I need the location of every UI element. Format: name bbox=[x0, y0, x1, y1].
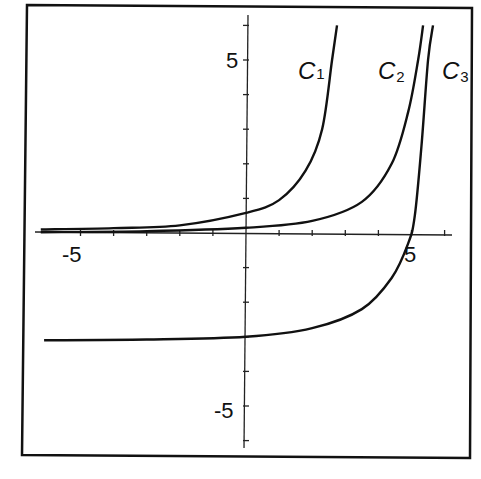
curve-c1 bbox=[41, 25, 337, 229]
y-tick-label-5: 5 bbox=[226, 48, 238, 73]
label-c1: C1 bbox=[298, 57, 325, 84]
x-tick-label-5: 5 bbox=[404, 242, 416, 267]
curve-c3 bbox=[44, 25, 433, 340]
label-c3: C3 bbox=[442, 57, 469, 85]
chart: -5 5 5 -5 C1 C2 C3 bbox=[0, 0, 481, 479]
label-c2: C2 bbox=[378, 57, 405, 85]
y-axis bbox=[244, 15, 248, 448]
x-tick-label-neg5: -5 bbox=[62, 242, 82, 267]
y-tick-label-neg5: -5 bbox=[214, 398, 234, 423]
